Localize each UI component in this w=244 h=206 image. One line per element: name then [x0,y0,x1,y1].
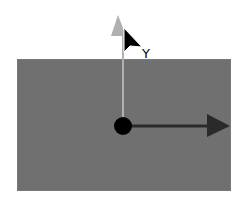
arrow-pointer-icon [124,28,142,52]
pivot-handle[interactable] [114,117,132,135]
x-axis-arrowhead-icon[interactable] [207,114,230,137]
y-axis-label: Y [142,47,150,60]
